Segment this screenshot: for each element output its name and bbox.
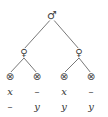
- leaf-node-1: ⊗: [6, 72, 14, 82]
- edge-root-right: [52, 18, 79, 49]
- root-male-node: ♂: [47, 10, 57, 21]
- leaf2-row2-label: y: [34, 102, 40, 112]
- female-node-left: ♀: [20, 48, 27, 58]
- leaf-node-2: ⊗: [33, 72, 41, 82]
- female-node-right: ♀: [75, 48, 82, 58]
- leaf-node-4: ⊗: [87, 72, 95, 82]
- leaf-node-3: ⊗: [60, 72, 68, 82]
- leaf3-row1-label: x: [61, 87, 67, 97]
- edge-root-left: [24, 18, 52, 49]
- leaf3-row2-label: y: [61, 102, 67, 112]
- leaf4-row2-label: y: [88, 102, 94, 112]
- leaf2-row1-label: –: [35, 87, 40, 97]
- leaf1-row1-label: x: [7, 87, 13, 97]
- leaf4-row1-label: –: [89, 87, 94, 97]
- leaf1-row2-label: –: [8, 102, 13, 112]
